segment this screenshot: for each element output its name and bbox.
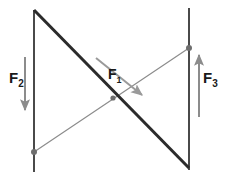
force-diagram-svg xyxy=(0,0,227,178)
thick-diagonal-beam xyxy=(34,10,189,168)
node-top-right xyxy=(186,45,192,51)
force-diagram-canvas: F1 F2 F3 xyxy=(0,0,227,178)
force-label-f1-subscript: 1 xyxy=(117,75,122,85)
node-bottom-left xyxy=(31,149,37,155)
force-label-f1-base: F xyxy=(108,66,117,82)
force-label-f1: F1 xyxy=(108,66,122,82)
force-label-f3-subscript: 3 xyxy=(212,78,218,89)
force-label-f2: F2 xyxy=(9,70,24,86)
force-label-f2-base: F xyxy=(9,69,18,86)
force-label-f2-subscript: 2 xyxy=(18,78,24,89)
force-label-f3-base: F xyxy=(203,69,212,86)
node-center-intersection xyxy=(110,95,115,100)
force-label-f3: F3 xyxy=(203,70,218,86)
